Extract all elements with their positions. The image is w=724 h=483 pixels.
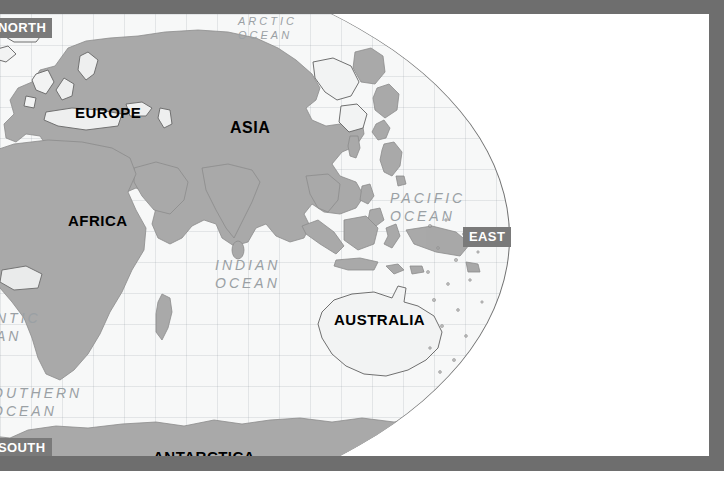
landmass-korea	[340, 132, 370, 172]
map-page: ARCTIC OCEAN PACIFIC OCEAN INDIAN OCEAN …	[0, 0, 724, 483]
ocean-label-atlantic-ocean: NTIC AN	[0, 310, 41, 346]
globe-sphere: ARCTIC OCEAN PACIFIC OCEAN INDIAN OCEAN …	[0, 14, 510, 456]
frame-border-top	[0, 0, 724, 14]
continent-label-australia: AUSTRALIA	[334, 311, 425, 328]
ocean-label-indian-ocean: INDIAN OCEAN	[215, 257, 280, 293]
ocean-label-arctic-ocean-line-1: ARCTIC	[238, 14, 297, 28]
ocean-label-indian-ocean-line-2: OCEAN	[215, 275, 280, 293]
ocean-label-pacific-ocean-line-1: PACIFIC	[390, 190, 465, 208]
ocean-label-pacific-ocean: PACIFIC OCEAN	[390, 190, 465, 226]
ocean-label-southern-ocean: OUTHERN OCEAN	[0, 385, 82, 421]
ocean-label-indian-ocean-line-1: INDIAN	[215, 257, 280, 275]
landmass-madagascar	[152, 292, 178, 346]
map-canvas[interactable]: ARCTIC OCEAN PACIFIC OCEAN INDIAN OCEAN …	[0, 14, 709, 456]
ocean-label-atlantic-ocean-line-2: AN	[0, 328, 41, 346]
ocean-label-arctic-ocean: ARCTIC OCEAN	[238, 14, 297, 42]
frame-border-bottom	[0, 456, 724, 471]
continent-label-africa: AFRICA	[68, 212, 128, 229]
frame-border-right	[709, 0, 724, 471]
direction-chip-south[interactable]: SOUTH	[0, 438, 52, 456]
ocean-label-southern-ocean-line-1: OUTHERN	[0, 385, 82, 403]
continent-label-asia: ASIA	[230, 119, 270, 137]
ocean-label-atlantic-ocean-line-1: NTIC	[0, 310, 41, 328]
ocean-label-pacific-ocean-line-2: OCEAN	[390, 208, 465, 226]
globe-surface: ARCTIC OCEAN PACIFIC OCEAN INDIAN OCEAN …	[0, 14, 510, 456]
continent-label-antarctica: ANTARCTICA	[153, 448, 255, 456]
direction-chip-north[interactable]: NORTH	[0, 18, 52, 38]
ocean-label-southern-ocean-line-2: OCEAN	[0, 403, 82, 421]
direction-chip-east[interactable]: EAST	[463, 227, 511, 247]
landmass-africa	[0, 124, 180, 424]
ocean-label-arctic-ocean-line-2: OCEAN	[238, 28, 297, 42]
continent-label-europe: EUROPE	[75, 104, 141, 121]
